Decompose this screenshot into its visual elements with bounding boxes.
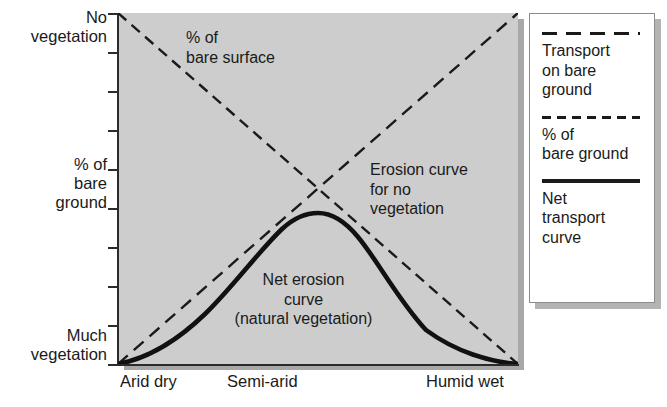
legend: Transport on bare ground % of bare groun… xyxy=(529,13,655,303)
y-axis-tick xyxy=(108,91,118,93)
legend-entry-transport-on-bare-ground: Transport on bare ground xyxy=(542,28,654,100)
short-dashed-line-icon xyxy=(542,112,640,122)
y-axis-label-top: No vegetation xyxy=(5,8,107,46)
long-dashed-line-icon xyxy=(542,28,640,38)
chart-figure: No vegetation % of bare ground Much vege… xyxy=(0,0,667,407)
y-axis-tick xyxy=(108,247,118,249)
y-axis-label-bottom: Much vegetation xyxy=(5,326,107,364)
y-axis-tick xyxy=(108,169,118,171)
y-axis-label-middle: % of bare ground xyxy=(5,155,107,212)
legend-label: Net transport curve xyxy=(542,189,654,248)
x-axis-line xyxy=(117,364,519,366)
y-axis-tick xyxy=(108,364,118,366)
legend-label: % of bare ground xyxy=(542,125,654,164)
y-axis-tick xyxy=(108,13,118,15)
annotation-erosion-curve-no-vegetation: Erosion curve for no vegetation xyxy=(370,160,468,219)
y-axis-tick xyxy=(108,52,118,54)
y-axis-tick xyxy=(108,286,118,288)
x-axis-label-arid-dry: Arid dry xyxy=(120,371,177,391)
legend-entry-net-transport-curve: Net transport curve xyxy=(542,176,654,248)
legend-label: Transport on bare ground xyxy=(542,41,654,100)
annotation-net-erosion-curve: Net erosion curve (natural vegetation) xyxy=(196,270,411,329)
legend-entry-percent-bare-ground: % of bare ground xyxy=(542,112,654,164)
solid-line-icon xyxy=(542,176,640,186)
y-axis-tick xyxy=(108,130,118,132)
y-axis-tick xyxy=(108,208,118,210)
x-axis-label-semi-arid: Semi-arid xyxy=(227,371,298,391)
annotation-percent-bare-surface: % of bare surface xyxy=(186,28,275,67)
y-axis-tick xyxy=(108,325,118,327)
y-axis-line xyxy=(117,13,119,366)
x-axis-label-humid-wet: Humid wet xyxy=(426,371,504,391)
